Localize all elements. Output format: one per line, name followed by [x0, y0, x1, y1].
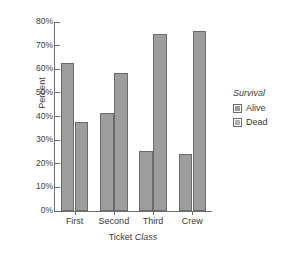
legend-label: Dead — [246, 117, 268, 127]
x-axis-label-emphasis: Class — [135, 232, 158, 242]
y-tick-label: 70% — [36, 40, 53, 50]
bar-third-dead — [153, 34, 167, 211]
legend-entries: AliveDead — [233, 103, 297, 127]
bar-group: Third — [134, 22, 173, 211]
bar-group: Crew — [173, 22, 212, 211]
bar-group: First — [55, 22, 94, 211]
x-tick-label-third: Third — [134, 216, 173, 226]
y-tick-label: 10% — [36, 181, 53, 191]
bar-second-dead — [114, 73, 128, 211]
bar-first-dead — [75, 122, 89, 211]
legend-item-alive[interactable]: Alive — [233, 103, 297, 113]
x-tick-mark — [75, 211, 76, 215]
bar-groups: FirstSecondThirdCrew — [55, 22, 212, 211]
y-tick-label: 50% — [36, 87, 53, 97]
x-axis-label: Ticket Class — [54, 232, 212, 242]
legend-item-dead[interactable]: Dead — [233, 117, 297, 127]
legend-swatch-icon — [233, 104, 242, 113]
y-tick-label: 0% — [41, 205, 53, 215]
y-tick-label: 20% — [36, 158, 53, 168]
bar-crew-dead — [193, 31, 207, 211]
legend-title: Survival — [233, 88, 297, 98]
x-tick-label-crew: Crew — [173, 216, 212, 226]
y-tick-label: 60% — [36, 63, 53, 73]
bar-chart-figure: Percent 0%10%20%30%40%50%60%70%80% First… — [0, 0, 298, 257]
legend: Survival AliveDead — [233, 88, 297, 131]
x-tick-mark — [153, 211, 154, 215]
x-tick-label-first: First — [55, 216, 94, 226]
bar-third-alive — [139, 151, 153, 211]
legend-label: Alive — [246, 103, 266, 113]
y-tick-label: 30% — [36, 134, 53, 144]
x-tick-label-second: Second — [94, 216, 133, 226]
y-tick-label: 80% — [36, 16, 53, 26]
x-tick-mark — [114, 211, 115, 215]
bar-second-alive — [100, 113, 114, 211]
y-tick-label: 40% — [36, 111, 53, 121]
bar-first-alive — [61, 63, 75, 211]
legend-swatch-icon — [233, 118, 242, 127]
bar-crew-alive — [179, 154, 193, 211]
bar-group: Second — [94, 22, 133, 211]
x-tick-mark — [192, 211, 193, 215]
plot-area: 0%10%20%30%40%50%60%70%80% FirstSecondTh… — [54, 22, 212, 212]
x-axis-label-plain: Ticket — [109, 232, 135, 242]
